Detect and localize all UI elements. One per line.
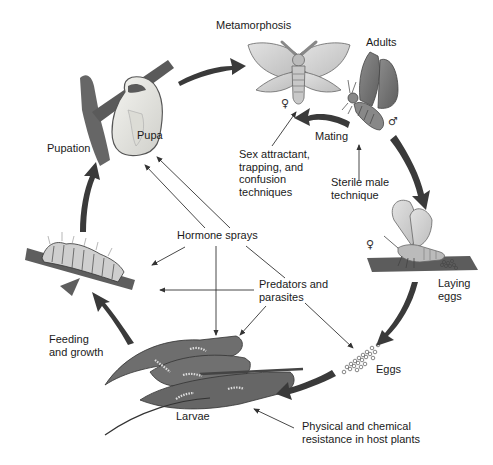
label-pupation: Pupation bbox=[47, 142, 90, 155]
label-eggs: Eggs bbox=[376, 363, 401, 376]
arrow-host-resistance-to-larvae bbox=[254, 409, 294, 428]
label-mating: Mating bbox=[315, 130, 348, 143]
female-symbol-icon: ♀ bbox=[281, 97, 289, 110]
arrow-hormone-to-predators bbox=[246, 246, 285, 278]
male-symbol-icon: ♂ bbox=[388, 115, 398, 128]
arrow-caterpillar-to-pupation bbox=[80, 162, 100, 232]
egg-laying-moth-illustration bbox=[367, 200, 478, 272]
label-larvae: Larvae bbox=[176, 410, 210, 423]
arrow-hormone-to-caterpillar bbox=[152, 247, 185, 265]
arrow-adults-to-laying bbox=[390, 135, 430, 210]
pupa-illustration bbox=[80, 60, 174, 166]
label-sterile-male: Sterile male technique bbox=[331, 176, 389, 201]
female-moth-illustration bbox=[248, 42, 350, 104]
label-laying-eggs: Laying eggs bbox=[438, 277, 470, 302]
caterpillar-illustration bbox=[25, 232, 135, 296]
arrow-mating bbox=[294, 108, 350, 128]
insect-life-cycle-diagram: Metamorphosis Adults Mating Sex attracta… bbox=[0, 0, 493, 465]
label-host-resistance: Physical and chemical resistance in host… bbox=[302, 420, 420, 445]
label-hormone-sprays: Hormone sprays bbox=[177, 229, 258, 242]
female-symbol-icon-laying: ♀ bbox=[366, 238, 374, 251]
label-adults: Adults bbox=[366, 36, 397, 49]
arrow-predators-to-larvae bbox=[240, 306, 266, 335]
arrow-pupa-to-metamorphosis bbox=[178, 58, 246, 86]
label-metamorphosis: Metamorphosis bbox=[216, 19, 291, 32]
eggs-illustration bbox=[342, 343, 380, 374]
arrow-predators-to-eggs bbox=[305, 303, 353, 348]
label-sex-attractant: Sex attractant, trapping, and confusion … bbox=[239, 148, 310, 198]
label-feeding-growth: Feeding and growth bbox=[49, 333, 103, 358]
arrow-sex-attractant-to-female bbox=[272, 112, 296, 146]
arrow-laying-to-eggs bbox=[376, 282, 418, 346]
arrow-hormone-to-pupa-2 bbox=[157, 157, 230, 228]
label-pupa: Pupa bbox=[137, 129, 163, 142]
label-predators-parasites: Predators and parasites bbox=[259, 278, 328, 303]
